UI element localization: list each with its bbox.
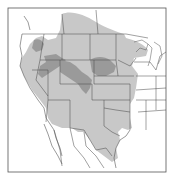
range-map [0,0,178,184]
